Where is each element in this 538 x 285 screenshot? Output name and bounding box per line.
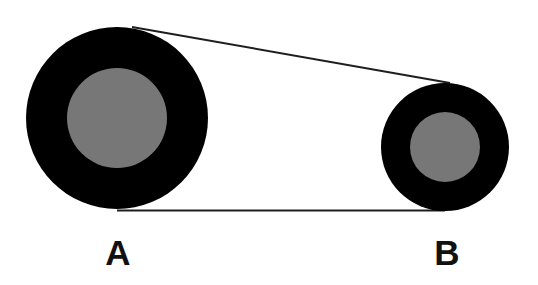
pulley-a [26,27,208,209]
pulley-b-inner-hub [410,112,480,182]
pulley-a-label: A [98,235,138,270]
pulley-a-inner-hub [67,68,167,168]
pulley-b-label: B [427,235,467,270]
pulley-b [381,83,509,211]
